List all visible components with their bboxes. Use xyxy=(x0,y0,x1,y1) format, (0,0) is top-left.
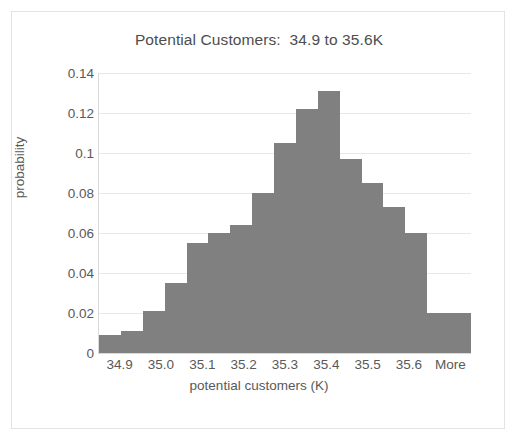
x-tick-label: 35.2 xyxy=(223,357,264,377)
histogram-bar xyxy=(121,331,143,353)
histogram-bar xyxy=(383,207,405,353)
x-axis-title: potential customers (K) xyxy=(12,378,506,393)
histogram-bar xyxy=(340,159,362,353)
x-axis-tick-labels: 34.9 35.0 35.1 35.2 35.3 35.4 35.5 35.6 … xyxy=(99,357,471,377)
y-tick-label: 0.1 xyxy=(50,146,94,161)
histogram-bar xyxy=(427,313,449,353)
y-tick-label: 0.08 xyxy=(50,186,94,201)
x-tick-label: 35.0 xyxy=(140,357,181,377)
histogram-bars xyxy=(99,73,471,353)
x-axis-line xyxy=(99,353,471,354)
histogram-bar xyxy=(143,311,165,353)
y-tick-label: 0.06 xyxy=(50,226,94,241)
histogram-bar xyxy=(449,313,471,353)
histogram-bar xyxy=(405,233,427,353)
x-tick-label: 34.9 xyxy=(99,357,140,377)
y-tick-label: 0.04 xyxy=(50,266,94,281)
histogram-bar xyxy=(252,193,274,353)
histogram-bar xyxy=(318,91,340,353)
y-tick-label: 0 xyxy=(50,346,94,361)
y-tick-label: 0.14 xyxy=(50,66,94,81)
histogram-bar xyxy=(362,183,384,353)
x-tick-label: 35.4 xyxy=(306,357,347,377)
y-tick-label: 0.12 xyxy=(50,106,94,121)
histogram-bar xyxy=(230,225,252,353)
x-tick-label: 35.5 xyxy=(347,357,388,377)
histogram-bar xyxy=(296,109,318,353)
x-tick-label: 35.3 xyxy=(264,357,305,377)
y-axis-title: probability xyxy=(12,137,27,199)
x-tick-label: 35.1 xyxy=(182,357,223,377)
plot-area xyxy=(99,73,471,353)
x-tick-label: More xyxy=(430,357,471,377)
histogram-bar xyxy=(187,243,209,353)
histogram-bar xyxy=(208,233,230,353)
histogram-bar xyxy=(165,283,187,353)
y-axis-tick-labels: 0.14 0.12 0.1 0.08 0.06 0.04 0.02 0 xyxy=(38,12,94,430)
x-tick-label: 35.6 xyxy=(388,357,429,377)
y-tick-label: 0.02 xyxy=(50,306,94,321)
histogram-bar xyxy=(274,143,296,353)
chart-frame: Potential Customers: 34.9 to 35.6K proba… xyxy=(11,11,505,429)
histogram-bar xyxy=(99,335,121,353)
